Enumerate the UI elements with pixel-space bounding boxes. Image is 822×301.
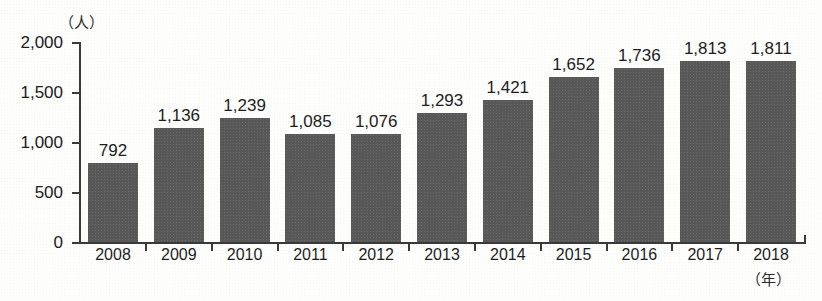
x-axis-tick	[671, 244, 673, 251]
x-axis-tick	[737, 244, 739, 251]
x-axis-category-label: 2016	[622, 247, 658, 263]
x-axis-line	[79, 242, 806, 244]
x-axis-tick	[606, 244, 608, 251]
y-axis-tick: 1,500	[72, 92, 79, 94]
x-axis-category-label: 2010	[227, 247, 263, 263]
bar-value-label: 1,136	[158, 107, 201, 124]
bar-value-label: 1,421	[487, 79, 530, 96]
x-axis-tick	[145, 244, 147, 251]
plot-area: 05001,0001,5002,000 7921,1361,2391,0851,…	[79, 42, 806, 243]
x-axis-category-label: 2011	[293, 247, 327, 263]
y-axis-tick-label: 500	[35, 184, 63, 201]
bar: 1,085	[285, 134, 335, 243]
bar: 1,239	[220, 118, 270, 242]
x-axis-category-label: 2015	[556, 247, 592, 263]
x-axis-category-label: 2017	[687, 247, 723, 263]
x-axis-category-label: 2013	[424, 247, 460, 263]
bar: 1,136	[154, 128, 204, 242]
bar-chart-figure: （人） （年） 05001,0001,5002,000 7921,1361,23…	[0, 0, 822, 301]
bar: 1,811	[746, 61, 796, 242]
bar: 1,421	[483, 100, 533, 242]
x-axis-unit-label: （年）	[746, 268, 791, 289]
x-axis-tick	[540, 244, 542, 251]
bar-value-label: 1,811	[750, 40, 791, 57]
bar: 1,076	[351, 134, 401, 242]
y-axis-tick: 1,000	[72, 142, 79, 144]
x-axis-category-label: 2009	[161, 247, 197, 263]
x-axis-tick	[474, 244, 476, 251]
y-axis-tick-label: 1,500	[20, 84, 63, 101]
bar: 792	[88, 163, 138, 242]
x-axis-tick	[408, 244, 410, 251]
bar-value-label: 1,813	[684, 40, 727, 57]
x-axis-category-label: 2012	[358, 247, 394, 263]
bar-value-label: 1,239	[223, 97, 266, 114]
y-axis-tick: 500	[72, 192, 79, 194]
y-axis-tick: 0	[72, 242, 79, 244]
bar-value-label: 792	[99, 142, 127, 159]
bar: 1,652	[549, 77, 599, 242]
bar-value-label: 1,652	[552, 56, 595, 73]
x-axis-tick	[211, 244, 213, 251]
x-axis-tick	[277, 244, 279, 251]
x-axis-category-label: 2014	[490, 247, 526, 263]
x-axis-end-cap	[804, 235, 806, 244]
bar: 1,293	[417, 113, 467, 242]
y-axis-line	[79, 42, 81, 243]
bar: 1,736	[614, 68, 664, 242]
y-axis-unit-label: （人）	[59, 11, 104, 32]
bar: 1,813	[680, 61, 730, 242]
x-axis-category-label: 2008	[95, 247, 131, 263]
y-axis-tick-label: 1,000	[20, 134, 63, 151]
bar-value-label: 1,293	[421, 92, 464, 109]
bar-value-label: 1,076	[355, 113, 398, 130]
bar-value-label: 1,085	[289, 113, 332, 130]
bar-value-label: 1,736	[618, 47, 661, 64]
y-axis-tick: 2,000	[72, 42, 79, 44]
x-axis-category-label: 2018	[753, 247, 789, 263]
x-axis-tick	[342, 244, 344, 251]
y-axis-tick-label: 0	[54, 234, 63, 251]
y-axis-tick-label: 2,000	[20, 34, 63, 51]
